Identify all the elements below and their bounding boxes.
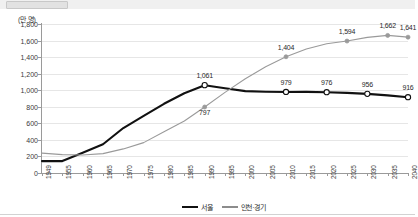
line-chart: (만 명) 02004006008001,0001,2001,4001,6001… [0, 9, 415, 217]
data-point-marker [405, 95, 410, 100]
data-point-label: 956 [362, 81, 373, 88]
legend-swatch-icon [222, 206, 238, 207]
data-point-marker [345, 39, 349, 43]
legend-swatch-icon [182, 206, 198, 209]
series-line-seoul [42, 85, 408, 161]
data-point-label: 979 [280, 79, 291, 86]
legend-item-incheon-gyeonggi[interactable]: 인천·경기 [222, 202, 266, 212]
data-point-marker [406, 35, 410, 39]
data-point-label: 976 [321, 79, 332, 86]
data-point-label: 1,641 [400, 24, 417, 31]
data-point-marker [365, 91, 370, 96]
data-point-label: 1,594 [339, 28, 356, 35]
legend-item-seoul[interactable]: 서울 [182, 202, 213, 212]
data-point-marker [202, 83, 207, 88]
legend-label: 인천·경기 [241, 202, 266, 212]
data-point-label: 1,662 [379, 22, 396, 29]
data-point-marker [386, 33, 390, 37]
chart-legend: 서울인천·경기 [182, 201, 266, 213]
bottom-divider [0, 214, 415, 215]
series-line-incheon-gyeonggi [42, 35, 408, 155]
data-point-label: 1,061 [196, 72, 213, 79]
top-bar-chip [6, 1, 68, 9]
data-point-label: 916 [402, 84, 413, 91]
data-point-marker [283, 89, 288, 94]
legend-label: 서울 [201, 202, 213, 212]
data-point-label: 1,404 [278, 44, 295, 51]
data-point-marker [284, 55, 288, 59]
data-point-marker [324, 90, 329, 95]
data-point-label: 797 [199, 109, 210, 116]
